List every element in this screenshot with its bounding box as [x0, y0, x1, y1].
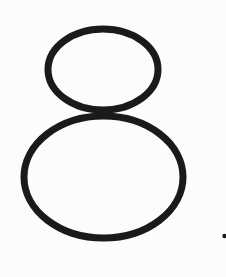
lower-loop: [24, 116, 183, 238]
numeral-eight-figure: [0, 0, 226, 277]
upper-loop: [48, 29, 158, 110]
glyph-canvas: 8: [0, 0, 226, 277]
period-mark: [222, 234, 226, 238]
